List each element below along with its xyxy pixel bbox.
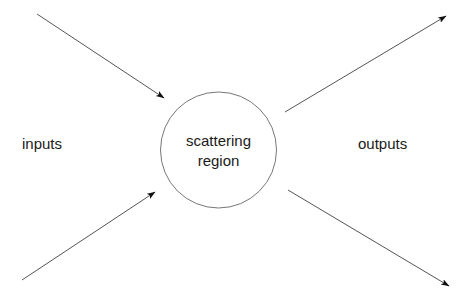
- input-arrow-top: [37, 14, 164, 98]
- scattering-region-label-line-1: scattering: [160, 131, 277, 151]
- scattering-region-label-line-2: region: [160, 151, 277, 171]
- outputs-label: outputs: [358, 134, 407, 153]
- diagram-canvas: scattering region inputs outputs: [0, 0, 469, 299]
- output-arrow-bottom: [288, 190, 449, 286]
- output-arrow-top: [285, 16, 446, 112]
- scattering-region-label: scattering region: [160, 131, 277, 171]
- input-arrow-bottom: [22, 192, 155, 280]
- inputs-label: inputs: [22, 134, 62, 153]
